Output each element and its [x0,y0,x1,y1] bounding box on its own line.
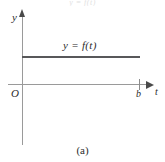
t-axis-line [8,84,152,85]
clipped-header-text: y = f(t) [0,0,165,6]
tick-label-b: b [136,89,141,99]
y-axis-arrowhead-icon [19,9,25,17]
y-axis-label: y [12,12,17,23]
y-axis-line [22,15,23,145]
function-curve-constant [22,56,140,58]
t-axis-arrowhead-icon [146,81,154,89]
figure-constant-function-plot: y = f(t) y t O b y = f(t) (a) [0,0,165,162]
figure-caption: (a) [0,144,165,156]
t-axis-label: t [155,87,158,97]
curve-equation-label: y = f(t) [63,40,97,51]
origin-label: O [11,88,19,99]
